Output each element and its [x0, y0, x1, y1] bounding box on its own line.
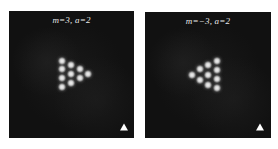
intensity-panel-left: m=3, a=2	[9, 11, 134, 138]
intensity-spot	[58, 57, 66, 65]
triangle-marker-icon	[256, 124, 264, 131]
intensity-spot	[196, 65, 204, 73]
intensity-spot	[188, 71, 196, 79]
intensity-spot	[67, 79, 75, 87]
intensity-spot	[67, 70, 75, 78]
intensity-spot	[204, 61, 212, 69]
intensity-panel-right: m=−3, a=2	[145, 12, 271, 138]
intensity-spot	[204, 81, 212, 89]
triangle-marker-icon	[120, 124, 128, 131]
intensity-spot	[196, 76, 204, 84]
intensity-spot	[76, 65, 84, 73]
panel-label: m=−3, a=2	[145, 16, 271, 26]
intensity-spot	[213, 57, 221, 65]
intensity-spot	[213, 84, 221, 92]
intensity-spot	[67, 61, 75, 69]
intensity-spot	[84, 70, 92, 78]
intensity-spot	[58, 83, 66, 91]
panel-label: m=3, a=2	[9, 15, 134, 25]
intensity-spot	[213, 66, 221, 74]
intensity-spot	[76, 74, 84, 82]
intensity-spot	[58, 74, 66, 82]
intensity-spot	[204, 71, 212, 79]
intensity-spot	[58, 65, 66, 73]
intensity-spot	[213, 75, 221, 83]
